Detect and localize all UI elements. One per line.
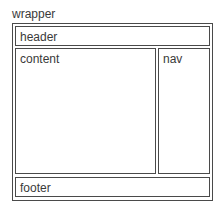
content-label: content	[20, 53, 59, 65]
header-label: header	[20, 31, 57, 43]
footer-label: footer	[20, 182, 51, 194]
wrapper-label: wrapper	[12, 8, 55, 20]
nav-label: nav	[163, 53, 182, 65]
content-box: content	[15, 48, 156, 174]
header-box: header	[15, 26, 210, 46]
nav-box: nav	[158, 48, 210, 174]
footer-box: footer	[15, 177, 210, 197]
